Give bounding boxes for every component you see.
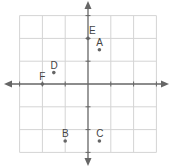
point-label: E <box>89 25 96 36</box>
point-b: B <box>62 128 69 143</box>
point-marker-icon <box>63 139 67 143</box>
point-d: D <box>51 60 58 75</box>
point-marker-icon <box>52 71 56 75</box>
point-marker-icon <box>86 37 90 41</box>
point-label: A <box>96 37 103 48</box>
point-a: A <box>96 37 103 52</box>
point-label: F <box>39 71 45 82</box>
point-marker-icon <box>98 139 102 143</box>
point-marker-icon <box>41 82 45 86</box>
x-axis-left-arrow-icon <box>4 81 12 88</box>
point-label: C <box>96 128 103 139</box>
y-axis-down-arrow-icon <box>85 158 92 166</box>
point-c: C <box>96 128 103 143</box>
point-label: B <box>62 128 69 139</box>
coordinate-plane: ABCDEF <box>0 0 173 167</box>
point-label: D <box>51 60 58 71</box>
y-axis-up-arrow-icon <box>85 1 92 9</box>
axes <box>4 1 169 166</box>
x-axis-right-arrow-icon <box>161 81 169 88</box>
point-marker-icon <box>98 48 102 52</box>
